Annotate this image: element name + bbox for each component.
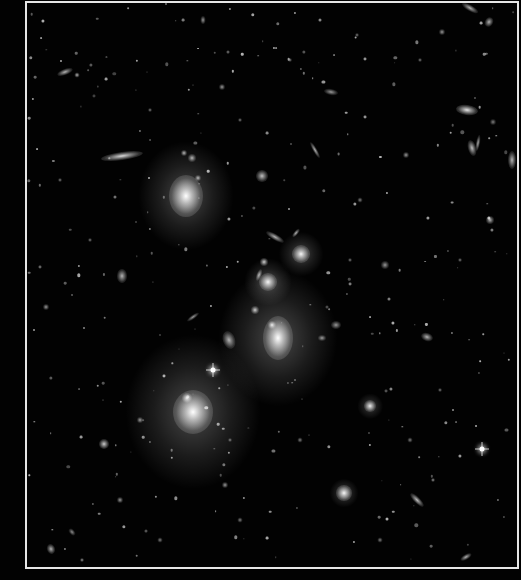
faint-source (175, 20, 176, 21)
galaxy (461, 1, 480, 15)
faint-source (67, 465, 70, 468)
faint-source (159, 334, 161, 336)
faint-source (451, 124, 454, 127)
faint-source (492, 7, 494, 9)
faint-source (303, 50, 306, 53)
faint-source (287, 58, 290, 61)
faint-source (252, 206, 255, 209)
faint-source (303, 166, 306, 169)
faint-source (506, 253, 507, 254)
faint-source (98, 512, 101, 515)
galaxy (169, 175, 203, 217)
galaxy (186, 311, 200, 322)
faint-source (87, 69, 89, 71)
faint-source (496, 135, 497, 136)
faint-source (371, 333, 373, 335)
faint-source (135, 554, 138, 557)
faint-source (392, 83, 395, 86)
faint-source (28, 271, 31, 274)
faint-source (113, 195, 116, 198)
faint-source (64, 548, 66, 550)
faint-source (243, 539, 244, 540)
galaxy (490, 119, 496, 125)
faint-source (78, 388, 80, 390)
galaxy (228, 438, 232, 442)
faint-source (327, 445, 330, 448)
faint-source (148, 177, 150, 179)
faint-source (170, 449, 173, 452)
faint-source (347, 134, 348, 135)
faint-source (219, 387, 221, 389)
faint-source (333, 54, 335, 56)
faint-source (353, 541, 355, 543)
faint-source (457, 267, 459, 269)
faint-source (388, 419, 389, 420)
faint-source (369, 316, 371, 318)
faint-source (410, 559, 411, 560)
faint-source (102, 382, 105, 385)
faint-source (52, 529, 53, 530)
galaxy (117, 269, 127, 283)
faint-source (251, 13, 254, 16)
faint-source (50, 433, 52, 435)
faint-source (461, 131, 464, 134)
faint-source (29, 56, 32, 59)
faint-source (222, 428, 225, 431)
faint-source (475, 425, 477, 427)
faint-source (142, 419, 144, 421)
faint-source (328, 308, 330, 310)
faint-source (96, 18, 99, 21)
galaxy (409, 492, 426, 509)
faint-source (368, 444, 370, 446)
faint-source (512, 11, 514, 13)
faint-source (468, 339, 470, 341)
faint-source (154, 496, 156, 498)
faint-source (266, 537, 269, 540)
faint-source (345, 111, 348, 114)
faint-source (318, 62, 319, 63)
faint-source (120, 179, 121, 180)
faint-source (455, 421, 457, 423)
galaxy (364, 400, 376, 412)
faint-source (302, 345, 304, 347)
faint-source (135, 89, 136, 90)
galaxy (43, 304, 49, 310)
star-core (480, 447, 485, 452)
faint-source (162, 374, 165, 377)
faint-source (269, 510, 272, 513)
faint-source (226, 162, 228, 164)
faint-source (294, 12, 296, 14)
faint-source (77, 274, 80, 277)
faint-source (416, 41, 419, 44)
galaxy (318, 335, 326, 341)
galaxy (99, 439, 109, 449)
galaxy (309, 141, 321, 159)
faint-source (503, 352, 504, 353)
galaxy (460, 552, 473, 562)
faint-source (89, 63, 92, 66)
galaxy (483, 16, 495, 29)
faint-source (64, 282, 67, 285)
faint-source (217, 423, 220, 426)
faint-source (479, 360, 481, 362)
faint-source (312, 77, 314, 79)
faint-source (106, 56, 107, 57)
faint-source (302, 72, 304, 74)
faint-source (52, 159, 54, 161)
faint-source (337, 153, 340, 156)
galaxy (418, 58, 422, 62)
galaxy (219, 84, 225, 90)
faint-source (197, 113, 199, 115)
faint-source (483, 333, 485, 335)
faint-source (269, 238, 270, 239)
faint-source (150, 252, 153, 255)
faint-source (210, 305, 212, 307)
galaxy (438, 388, 442, 392)
faint-source (449, 131, 452, 134)
faint-source (413, 505, 414, 506)
galaxy (348, 258, 352, 262)
galaxy (256, 170, 268, 182)
faint-source (478, 372, 480, 374)
faint-source (400, 484, 402, 486)
faint-source (503, 516, 505, 518)
